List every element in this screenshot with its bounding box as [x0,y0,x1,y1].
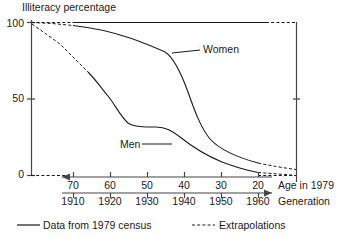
age-tick-label-30: 30 [208,180,234,191]
legend-label-extrapolations: Extrapolations [219,220,286,231]
generation-tick-label-1910: 1910 [56,196,90,207]
legend-label-census-data: Data from 1979 census [43,220,152,231]
y-tick-label-0: 0 [0,169,24,180]
age-tick-label-70: 70 [60,180,86,191]
women-leader-line [172,50,200,53]
men-extrapolation-left [32,24,88,72]
series-label-women: Women [203,44,239,55]
women-extrapolation-right [258,163,296,170]
generation-tick-label-1950: 1950 [204,196,238,207]
men-curve [88,72,258,173]
age-tick-label-50: 50 [134,180,160,191]
generation-tick-label-1960: 1960 [241,196,275,207]
generation-axis-title: Generation [278,196,330,207]
age-tick-label-40: 40 [171,180,197,191]
age-axis-title: Age in 1979 [278,180,334,191]
series-label-men: Men [120,139,140,150]
y-tick-label-100: 100 [0,18,24,29]
illiteracy-chart-figure: Illiteracy percentage 100 50 0 70 60 50 … [0,0,347,238]
generation-tick-label-1920: 1920 [93,196,127,207]
age-tick-label-60: 60 [97,180,123,191]
y-tick-label-50: 50 [0,93,24,104]
age-axis-ticks [74,172,259,177]
generation-tick-label-1940: 1940 [167,196,201,207]
age-tick-label-20: 20 [245,180,271,191]
y-axis-title: Illiteracy percentage [22,2,116,13]
generation-tick-label-1930: 1930 [130,196,164,207]
